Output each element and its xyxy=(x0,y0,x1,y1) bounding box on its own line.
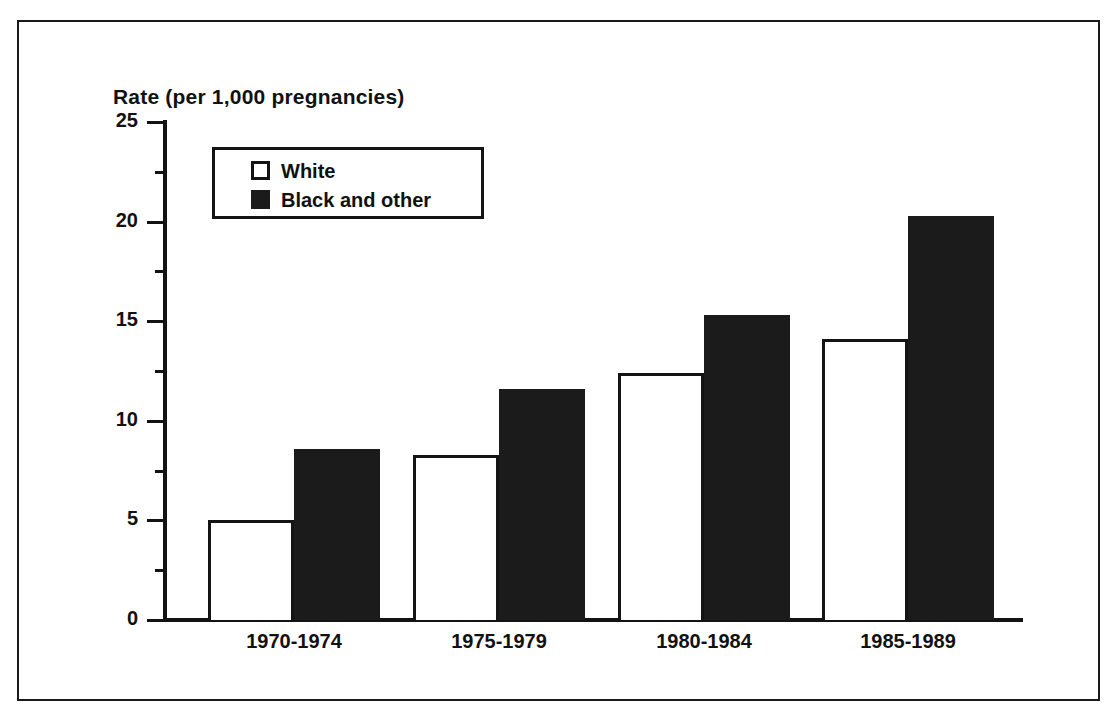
bar-black-and-other-1980-1984 xyxy=(704,315,790,620)
category-label-1980-1984: 1980-1984 xyxy=(618,630,790,653)
category-label-1970-1974: 1970-1974 xyxy=(208,630,380,653)
chart-page: Rate (per 1,000 pregnancies) 0510152025 … xyxy=(0,0,1119,724)
legend-swatch-black-icon xyxy=(251,190,270,209)
y-tick-5 xyxy=(147,519,165,522)
y-label-15: 15 xyxy=(78,308,138,331)
y-tick-10 xyxy=(147,420,165,423)
legend-label-black-and-other: Black and other xyxy=(281,190,431,210)
legend-label-white: White xyxy=(281,161,335,181)
y-tick-25 xyxy=(147,121,165,124)
y-label-wrap-25: 25 xyxy=(78,109,138,129)
y-label-25: 25 xyxy=(78,109,138,132)
y-label-wrap-15: 15 xyxy=(78,308,138,328)
category-label-1975-1979: 1975-1979 xyxy=(413,630,585,653)
y-label-5: 5 xyxy=(78,507,138,530)
y-tick-20 xyxy=(147,221,165,224)
y-label-wrap-10: 10 xyxy=(78,408,138,428)
y-tick-0 xyxy=(147,619,165,622)
legend-entry-black-and-other: Black and other xyxy=(251,185,481,214)
bar-black-and-other-1970-1974 xyxy=(294,449,380,620)
y-label-wrap-0: 0 xyxy=(78,607,138,627)
bar-white-1970-1974 xyxy=(208,520,294,620)
category-label-1985-1989: 1985-1989 xyxy=(822,630,994,653)
bar-white-1975-1979 xyxy=(413,455,499,620)
y-label-10: 10 xyxy=(78,408,138,431)
y-minor-tick xyxy=(155,270,165,273)
plot-area: 0510152025 1970-19741975-19791980-198419… xyxy=(0,0,1119,724)
y-label-wrap-20: 20 xyxy=(78,209,138,229)
y-minor-tick xyxy=(155,569,165,572)
y-label-wrap-5: 5 xyxy=(78,507,138,527)
legend-swatch-white-icon xyxy=(251,161,270,180)
legend-entry-white: White xyxy=(251,156,481,185)
bar-white-1985-1989 xyxy=(822,339,908,620)
y-minor-tick xyxy=(155,171,165,174)
bar-white-1980-1984 xyxy=(618,373,704,620)
y-minor-tick xyxy=(155,470,165,473)
chart-legend: White Black and other xyxy=(212,147,484,219)
bar-black-and-other-1985-1989 xyxy=(908,216,994,620)
y-tick-15 xyxy=(147,320,165,323)
y-label-20: 20 xyxy=(78,209,138,232)
bar-black-and-other-1975-1979 xyxy=(499,389,585,620)
y-minor-tick xyxy=(155,370,165,373)
y-label-0: 0 xyxy=(78,607,138,630)
